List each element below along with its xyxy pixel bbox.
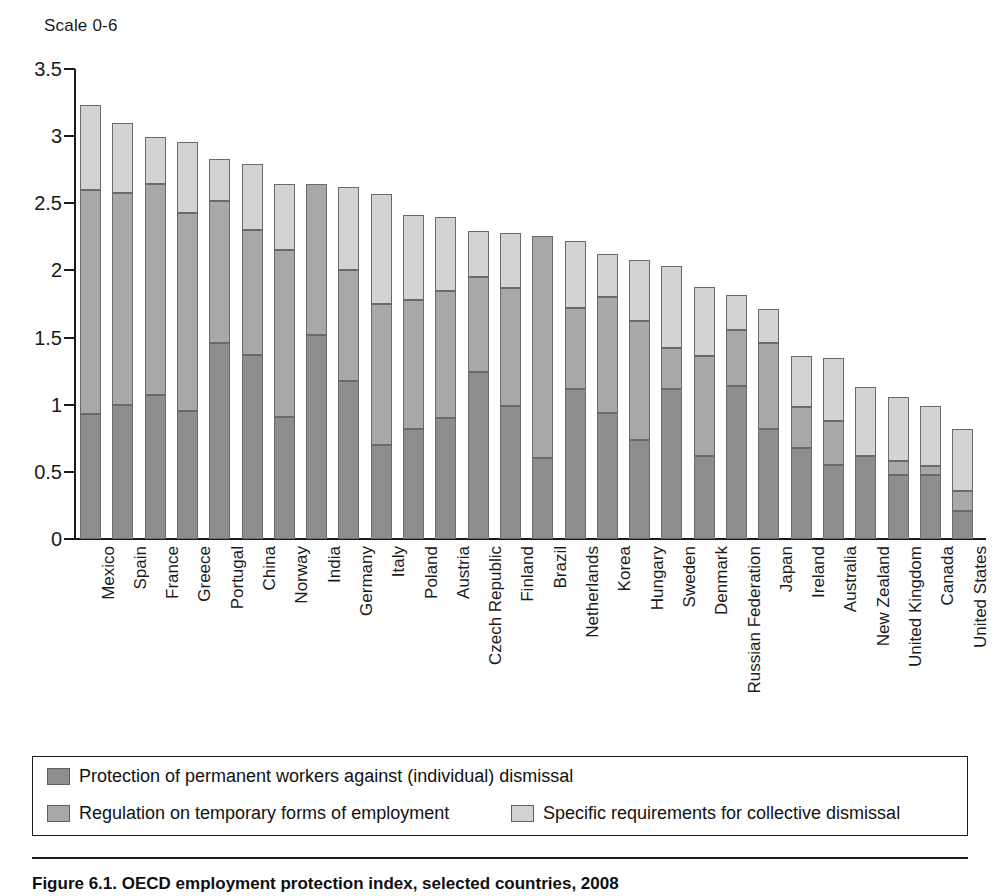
bar-segment <box>468 231 489 277</box>
bar-segment <box>500 406 521 539</box>
bar-segment <box>177 213 198 412</box>
bar-stack[interactable] <box>80 0 101 539</box>
bar-segment <box>952 429 973 491</box>
bar-stack[interactable] <box>338 0 359 539</box>
bar-segment <box>306 335 327 539</box>
bar-segment <box>80 414 101 539</box>
bar-stack[interactable] <box>823 0 844 539</box>
x-axis-label: Australia <box>840 546 861 612</box>
bar-stack[interactable] <box>145 0 166 539</box>
bar-segment <box>435 418 456 539</box>
bar-segment <box>80 105 101 190</box>
bar-stack[interactable] <box>597 0 618 539</box>
bar-segment <box>274 184 295 250</box>
x-axis-label: India <box>324 546 345 583</box>
legend-label-permanent: Protection of permanent workers against … <box>79 767 573 785</box>
bar-segment <box>242 230 263 355</box>
bar-stack[interactable] <box>468 0 489 539</box>
bar-segment <box>920 466 941 474</box>
x-axis-label: France <box>162 546 183 599</box>
bar-segment <box>726 386 747 539</box>
bar-segment <box>888 475 909 539</box>
bar-segment <box>532 458 553 539</box>
bar-segment <box>888 461 909 474</box>
bar-segment <box>435 291 456 419</box>
bar-stack[interactable] <box>532 0 553 539</box>
legend-swatch-collective-icon <box>511 805 534 822</box>
x-axis-label: Norway <box>291 546 312 604</box>
bar-stack[interactable] <box>661 0 682 539</box>
x-axis-label: Austria <box>453 546 474 599</box>
x-axis-label: New Zealand <box>873 546 894 646</box>
bar-stack[interactable] <box>274 0 295 539</box>
bar-stack[interactable] <box>791 0 812 539</box>
bar-segment <box>338 381 359 539</box>
bar-stack[interactable] <box>855 0 876 539</box>
bar-segment <box>823 465 844 539</box>
bar-stack[interactable] <box>888 0 909 539</box>
bar-segment <box>403 300 424 429</box>
bar-segment <box>112 193 133 405</box>
bar-segment <box>758 343 779 429</box>
x-axis-label: Sweden <box>679 546 700 607</box>
bar-segment <box>112 405 133 539</box>
bar-segment <box>758 429 779 539</box>
bar-segment <box>791 448 812 539</box>
bar-segment <box>726 330 747 386</box>
x-axis-label: Germany <box>356 546 377 616</box>
bar-stack[interactable] <box>758 0 779 539</box>
bar-segment <box>565 308 586 389</box>
bar-stack[interactable] <box>435 0 456 539</box>
legend-item-temporary[interactable]: Regulation on temporary forms of employm… <box>47 804 449 822</box>
legend-row-top: Protection of permanent workers against … <box>33 767 967 797</box>
bar-segment <box>145 184 166 395</box>
bar-segment <box>403 429 424 539</box>
bar-stack[interactable] <box>952 0 973 539</box>
x-axis-label: Greece <box>194 546 215 602</box>
legend-label-collective: Specific requirements for collective dis… <box>543 804 900 822</box>
chart-plot-area: 00.511.522.533.5 <box>0 0 1001 560</box>
bar-segment <box>823 358 844 421</box>
bar-segment <box>565 241 586 308</box>
bar-stack[interactable] <box>500 0 521 539</box>
bar-stack[interactable] <box>209 0 230 539</box>
bar-stack[interactable] <box>726 0 747 539</box>
bar-stack[interactable] <box>565 0 586 539</box>
bar-stack[interactable] <box>694 0 715 539</box>
chart-legend: Protection of permanent workers against … <box>32 756 968 836</box>
bar-segment <box>758 309 779 343</box>
bar-segment <box>468 372 489 539</box>
bar-segment <box>338 270 359 380</box>
bar-stack[interactable] <box>403 0 424 539</box>
x-axis-labels: MexicoSpainFranceGreecePortugalChinaNorw… <box>0 540 1001 740</box>
bar-stack[interactable] <box>629 0 650 539</box>
x-axis-label: Hungary <box>647 546 668 610</box>
legend-item-permanent[interactable]: Protection of permanent workers against … <box>47 767 573 785</box>
x-axis-label: Netherlands <box>582 546 603 638</box>
bar-stack[interactable] <box>242 0 263 539</box>
bar-segment <box>532 236 553 459</box>
bar-stack[interactable] <box>112 0 133 539</box>
bar-stack[interactable] <box>306 0 327 539</box>
bar-segment <box>661 266 682 348</box>
bar-stack[interactable] <box>920 0 941 539</box>
bar-segment <box>694 456 715 539</box>
bar-segment <box>597 297 618 412</box>
legend-row-bottom: Regulation on temporary forms of employm… <box>33 804 967 834</box>
bar-segment <box>468 277 489 372</box>
caption-divider <box>32 857 968 859</box>
bar-segment <box>855 456 876 539</box>
x-axis-label: Canada <box>937 546 958 606</box>
bar-segment <box>952 491 973 511</box>
x-axis-label: Spain <box>130 546 151 589</box>
bar-segment <box>888 397 909 461</box>
bar-segment <box>597 254 618 297</box>
bar-segment <box>629 321 650 439</box>
bar-segment <box>209 343 230 539</box>
bar-stack[interactable] <box>177 0 198 539</box>
bar-segment <box>629 260 650 322</box>
bars-layer <box>0 0 1001 560</box>
legend-item-collective[interactable]: Specific requirements for collective dis… <box>511 804 900 822</box>
bar-stack[interactable] <box>371 0 392 539</box>
bar-segment <box>855 387 876 455</box>
